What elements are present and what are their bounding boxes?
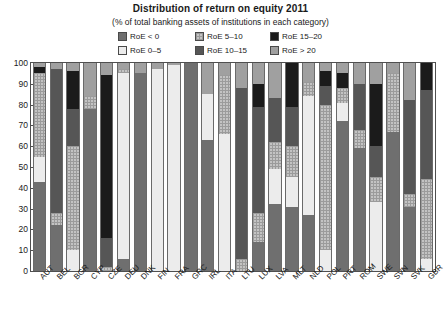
bar-segment-grc-neg xyxy=(184,63,197,271)
bar-segment-prt-0-5 xyxy=(336,103,349,122)
bar-segment-pol-5-10 xyxy=(319,105,332,251)
bar-segment-cze-15-20 xyxy=(100,75,113,237)
bar-segment-dnk-neg xyxy=(134,73,147,271)
bar-segment-pol-15-20 xyxy=(319,71,332,86)
legend-item-0-5[interactable]: RoE 0–5 xyxy=(118,45,161,56)
bar-cyp[interactable] xyxy=(83,63,96,271)
bar-cze[interactable] xyxy=(100,63,113,271)
bar-segment-aut-gt20 xyxy=(33,63,46,67)
legend-label: RoE < 0 xyxy=(130,32,159,41)
bar-rom[interactable] xyxy=(353,63,366,271)
bar-svn[interactable] xyxy=(386,63,399,271)
bar-bel[interactable] xyxy=(50,63,63,271)
bar-fra[interactable] xyxy=(167,63,180,271)
chart-subtitle: (% of total banking assets of institutio… xyxy=(0,17,441,27)
bar-segment-svk-10-15 xyxy=(403,100,416,194)
legend-item-neg[interactable]: RoE < 0 xyxy=(118,31,159,42)
bar-segment-mlt-neg xyxy=(285,207,298,271)
bar-segment-ita-gt20 xyxy=(218,63,231,75)
bar-segment-ita-5-10 xyxy=(218,75,231,133)
plot-area: 0102030405060708090100 xyxy=(30,62,436,272)
bar-lva[interactable] xyxy=(268,63,281,271)
bar-segment-cyp-neg xyxy=(83,109,96,271)
bar-segment-aut-neg xyxy=(33,182,46,271)
bar-segment-irl-gt20 xyxy=(201,63,214,94)
legend-label: RoE 0–5 xyxy=(130,46,161,55)
bar-bgr[interactable] xyxy=(66,63,79,271)
bar-segment-rom-5-10 xyxy=(353,130,366,149)
bar-ita[interactable] xyxy=(218,63,231,271)
legend-item-gt20[interactable]: RoE > 20 xyxy=(270,45,316,56)
bar-swe[interactable] xyxy=(369,63,382,271)
bar-segment-rom-10-15 xyxy=(353,84,366,130)
bar-nld[interactable] xyxy=(302,63,315,271)
legend-label: RoE 5–10 xyxy=(207,32,243,41)
y-axis-tick-label: 0 xyxy=(2,266,28,276)
bar-segment-mlt-15-20 xyxy=(285,63,298,107)
y-axis-tick-label: 10 xyxy=(2,245,28,255)
bar-segment-svk-5-10 xyxy=(403,194,416,206)
bar-irl[interactable] xyxy=(201,63,214,271)
y-axis-tick-label: 60 xyxy=(2,141,28,151)
bar-segment-bgr-5-10 xyxy=(66,146,79,250)
bar-segment-lux-5-10 xyxy=(252,213,265,242)
bar-segment-ltu-10-15 xyxy=(235,88,248,259)
bar-segment-nld-neg xyxy=(302,215,315,271)
y-axis-tick-label: 80 xyxy=(2,100,28,110)
bar-prt[interactable] xyxy=(336,63,349,271)
bar-segment-aut-0-5 xyxy=(33,157,46,182)
bar-segment-pol-gt20 xyxy=(319,63,332,71)
bar-pol[interactable] xyxy=(319,63,332,271)
bar-segment-mlt-5-10 xyxy=(285,146,298,177)
bar-segment-swe-gt20 xyxy=(369,63,382,84)
y-axis-tick-label: 90 xyxy=(2,79,28,89)
bar-lux[interactable] xyxy=(252,63,265,271)
bar-dnk[interactable] xyxy=(134,63,147,271)
bar-segment-prt-5-10 xyxy=(336,88,349,103)
bar-segment-gbr-15-20 xyxy=(420,63,433,90)
bar-segment-lux-10-15 xyxy=(252,107,265,213)
bar-segment-svk-neg xyxy=(403,207,416,271)
bar-segment-bgr-10-15 xyxy=(66,109,79,146)
bar-svk[interactable] xyxy=(403,63,416,271)
legend-label: RoE 10–15 xyxy=(207,46,247,55)
bar-deu[interactable] xyxy=(117,63,130,271)
bar-segment-cze-gt20 xyxy=(100,63,113,75)
bar-segment-lva-neg xyxy=(268,204,281,271)
legend-swatch-5-10-icon xyxy=(195,32,204,41)
bar-fin[interactable] xyxy=(151,63,164,271)
bar-aut[interactable] xyxy=(33,63,46,271)
bar-segment-nld-0-5 xyxy=(302,96,315,215)
bar-gbr[interactable] xyxy=(420,63,433,271)
bar-segment-swe-5-10 xyxy=(369,177,382,202)
bar-segment-rom-gt20 xyxy=(353,63,366,84)
bar-segment-dnk-gt20 xyxy=(134,63,147,73)
bar-segment-bgr-gt20 xyxy=(66,63,79,71)
bar-segment-svn-neg xyxy=(386,132,399,271)
bar-segment-svn-gt20 xyxy=(386,63,399,73)
bar-segment-bel-10-15 xyxy=(50,69,63,213)
legend-item-10-15[interactable]: RoE 10–15 xyxy=(195,45,247,56)
bar-mlt[interactable] xyxy=(285,63,298,271)
bar-segment-lva-10-15 xyxy=(268,98,281,142)
bar-segment-gbr-5-10 xyxy=(420,179,433,258)
bar-segment-prt-neg xyxy=(336,121,349,271)
bar-segment-rom-neg xyxy=(353,148,366,271)
chart-legend: RoE < 0RoE 0–5RoE 5–10RoE 10–15RoE 15–20… xyxy=(118,31,340,57)
y-axis-tick-label: 50 xyxy=(2,162,28,172)
bar-segment-cze-10-15 xyxy=(100,238,113,267)
legend-item-5-10[interactable]: RoE 5–10 xyxy=(195,31,243,42)
y-axis-tick-label: 70 xyxy=(2,120,28,130)
bar-segment-deu-gt20 xyxy=(117,63,130,69)
bar-segment-deu-5-10 xyxy=(117,69,130,73)
bar-segment-mlt-0-5 xyxy=(285,177,298,206)
bar-segment-pol-10-15 xyxy=(319,86,332,105)
legend-swatch-neg-icon xyxy=(118,32,127,41)
y-axis-tick-label: 100 xyxy=(2,58,28,68)
bar-grc[interactable] xyxy=(184,63,197,271)
bar-segment-swe-15-20 xyxy=(369,84,382,146)
legend-item-15-20[interactable]: RoE 15–20 xyxy=(270,31,322,42)
bar-ltu[interactable] xyxy=(235,63,248,271)
bar-segment-cyp-gt20 xyxy=(83,63,96,96)
legend-swatch-0-5-icon xyxy=(118,46,127,55)
